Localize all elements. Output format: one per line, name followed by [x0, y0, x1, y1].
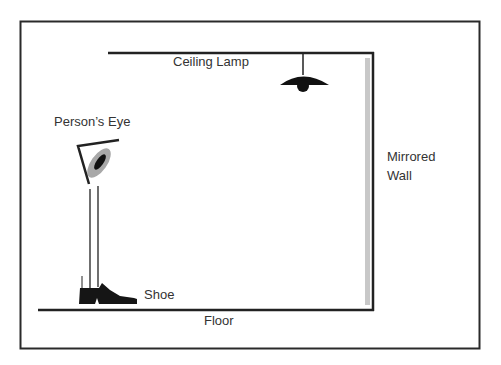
shoe-icon: [79, 283, 137, 304]
ceiling-lamp-label: Ceiling Lamp: [173, 54, 249, 69]
mirror-diagram: Ceiling Lamp Person’s Eye Mirrored Wall …: [0, 0, 501, 365]
mirrored-wall: [365, 58, 370, 305]
floor-label: Floor: [204, 313, 234, 328]
shoe-label: Shoe: [144, 287, 174, 302]
eye-icon: [78, 140, 119, 184]
ceiling-lamp-icon: [280, 54, 329, 92]
persons-eye-label: Person’s Eye: [54, 114, 130, 129]
mirrored-wall-label-line2: Wall: [387, 168, 412, 183]
mirrored-wall-label-line1: Mirrored: [387, 149, 435, 164]
